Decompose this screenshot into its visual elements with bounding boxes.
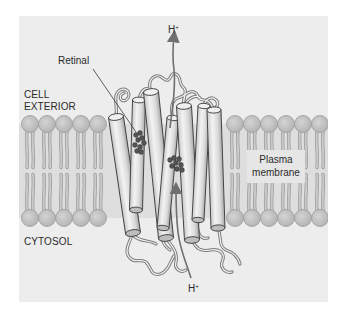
proton-bottom-label: H+ bbox=[188, 280, 199, 295]
retinal-atom bbox=[133, 143, 138, 148]
proton-bottom-charge: + bbox=[195, 283, 199, 289]
helix-b bbox=[129, 97, 145, 213]
cell-exterior-label: CELL EXTERIOR bbox=[24, 89, 76, 113]
retinal-atom bbox=[180, 168, 185, 173]
retinal-atom bbox=[139, 150, 144, 155]
retinal-atom bbox=[174, 161, 179, 166]
retinal-atom bbox=[177, 157, 182, 162]
retinal-atom bbox=[179, 163, 184, 168]
proton-top-label: H+ bbox=[168, 21, 179, 36]
retinal-label: Retinal bbox=[58, 55, 89, 67]
cell-exterior-line2: EXTERIOR bbox=[24, 101, 76, 113]
retinal-atom bbox=[175, 167, 180, 172]
cytosol-label-text: CYTOSOL bbox=[24, 236, 72, 247]
plasma-membrane-line1: Plasma bbox=[247, 153, 305, 166]
retinal-atom bbox=[140, 136, 145, 141]
retinal-atom bbox=[138, 145, 143, 150]
cytosol-label: CYTOSOL bbox=[24, 236, 72, 248]
retinal-label-text: Retinal bbox=[58, 55, 89, 66]
cell-exterior-line1: CELL bbox=[24, 89, 76, 101]
retinal-atom bbox=[172, 156, 177, 161]
retinal-atom bbox=[142, 141, 147, 146]
plasma-membrane-label: Plasma membrane bbox=[247, 150, 305, 183]
figure-stage: Retinal CELL EXTERIOR CYTOSOL H+ H+ Plas… bbox=[0, 0, 342, 312]
retinal-atom bbox=[138, 131, 143, 136]
proton-top-charge: + bbox=[175, 24, 179, 30]
plasma-membrane-line2: membrane bbox=[247, 166, 305, 179]
retinal-atom bbox=[170, 164, 175, 169]
